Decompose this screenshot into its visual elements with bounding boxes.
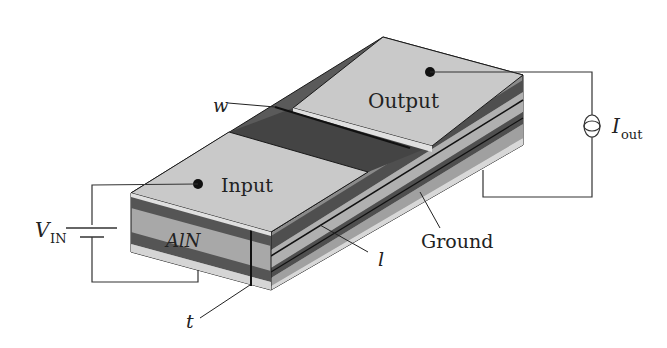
aln-label: AlN — [164, 230, 202, 251]
iout-label: I — [611, 114, 621, 138]
ground-label: Ground — [421, 230, 493, 252]
w-leader — [228, 103, 275, 107]
l-label: l — [378, 248, 384, 270]
t-label: t — [186, 310, 194, 332]
output-label: Output — [368, 89, 439, 113]
piezoelectric-transformer-diagram: Output Input w AlN Ground l t V IN I out — [0, 0, 667, 348]
t-leader — [200, 285, 250, 318]
vin-subscript: IN — [50, 231, 67, 246]
iout-subscript: out — [621, 127, 643, 142]
w-label: w — [213, 95, 229, 116]
input-label: Input — [221, 174, 273, 196]
